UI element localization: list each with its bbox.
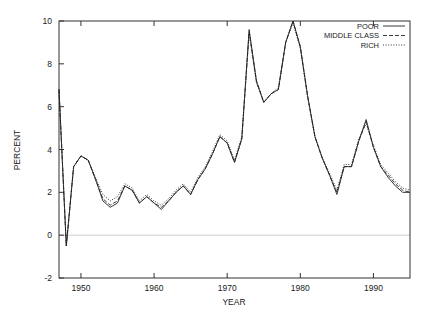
- y-tick-label: -2: [44, 273, 52, 283]
- x-tick-label: 1950: [71, 283, 90, 293]
- y-tick-label: 4: [47, 145, 52, 155]
- line-chart: -20246810 19501960197019801990 PERCENT Y…: [0, 0, 431, 322]
- x-tick-label: 1980: [291, 283, 310, 293]
- y-tick-label: 10: [43, 16, 53, 26]
- y-tick-label: 8: [47, 59, 52, 69]
- x-tick-label: 1960: [145, 283, 164, 293]
- y-tick-label: 2: [47, 187, 52, 197]
- x-tick-label: 1970: [218, 283, 237, 293]
- y-tick-label: 0: [47, 230, 52, 240]
- legend-label-middle-class: MIDDLE CLASS: [324, 31, 379, 40]
- x-tick-label: 1990: [364, 283, 383, 293]
- chart-container: -20246810 19501960197019801990 PERCENT Y…: [0, 0, 431, 322]
- legend-label-poor: POOR: [357, 22, 380, 31]
- legend-label-rich: RICH: [361, 41, 379, 50]
- x-axis-title: YEAR: [222, 297, 245, 307]
- y-tick-label: 6: [47, 102, 52, 112]
- y-axis-title: PERCENT: [12, 130, 22, 171]
